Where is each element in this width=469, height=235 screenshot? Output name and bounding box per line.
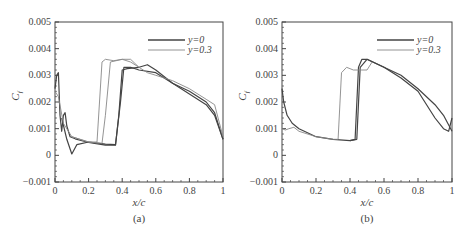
- figure: −0.00100.0010.0020.0030.0040.00500.20.40…: [0, 0, 469, 235]
- x-tick-label: 1: [221, 185, 226, 196]
- y-tick-label: 0.001: [256, 123, 279, 134]
- y-tick-label: 0.005: [29, 16, 52, 27]
- x-tick-label: 0.6: [378, 185, 391, 196]
- y-tick-label: 0.005: [256, 16, 279, 27]
- y-tick-label: −0.001: [250, 176, 278, 187]
- panel-a: −0.00100.0010.0020.0030.0040.00500.20.40…: [9, 16, 226, 225]
- y-tick-label: 0.002: [256, 96, 279, 107]
- y-tick-label: −0.001: [23, 176, 51, 187]
- y-axis-label: Cf: [9, 90, 24, 100]
- y-tick-label: 0: [273, 149, 278, 160]
- y-tick-label: 0.004: [256, 43, 279, 54]
- y-axis-label: Cf: [236, 90, 251, 100]
- legend-label: y=0.3: [187, 44, 212, 55]
- legend: y=0y=0.3: [148, 34, 212, 55]
- x-tick-label: 0.8: [183, 185, 196, 196]
- y-tick-label: 0.004: [29, 43, 52, 54]
- x-tick-label: 0.2: [310, 185, 323, 196]
- series-line-y0: [350, 59, 452, 140]
- series-line-y03: [55, 59, 223, 142]
- series-line-y0: [55, 65, 223, 146]
- panel-b: −0.00100.0010.0020.0030.0040.00500.20.40…: [236, 16, 455, 225]
- y-tick-label: 0.003: [256, 69, 279, 80]
- x-tick-label: 0: [280, 185, 285, 196]
- x-tick-label: 1: [450, 185, 455, 196]
- x-tick-label: 0.2: [82, 185, 95, 196]
- panel-caption: (a): [133, 212, 146, 225]
- y-tick-label: 0.001: [29, 123, 52, 134]
- y-tick-label: 0: [46, 149, 51, 160]
- legend-label: y=0.3: [416, 44, 441, 55]
- y-tick-label: 0.002: [29, 96, 52, 107]
- x-tick-label: 0.6: [150, 185, 163, 196]
- series-line-y0: [282, 59, 452, 140]
- x-axis-label: x/c: [360, 196, 374, 208]
- legend: y=0y=0.3: [377, 34, 441, 55]
- x-tick-label: 0.4: [344, 185, 357, 196]
- x-axis-label: x/c: [132, 196, 146, 208]
- x-tick-label: 0.4: [116, 185, 129, 196]
- x-tick-label: 0: [53, 185, 58, 196]
- y-tick-label: 0.003: [29, 69, 52, 80]
- panel-caption: (b): [361, 212, 374, 225]
- x-tick-label: 0.8: [412, 185, 425, 196]
- series-line-y03: [72, 59, 139, 143]
